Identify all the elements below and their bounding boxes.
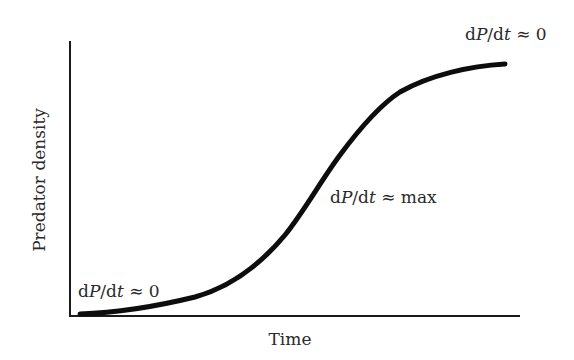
- predator-density-curve: [80, 64, 505, 314]
- annotation-plateau: dP/dt ≈ 0: [465, 24, 547, 44]
- annotation-inflection: dP/dt ≈ max: [330, 187, 437, 207]
- x-axis-label: Time: [269, 329, 312, 349]
- logistic-growth-chart: dP/dt ≈ 0 dP/dt ≈ max dP/dt ≈ 0 Time Pre…: [0, 0, 574, 360]
- annotation-start: dP/dt ≈ 0: [78, 281, 160, 301]
- y-axis-label: Predator density: [29, 108, 49, 252]
